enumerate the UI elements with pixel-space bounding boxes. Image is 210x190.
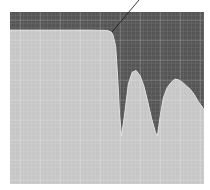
spectrum-figure (0, 0, 210, 190)
spectrum-plot (0, 0, 210, 190)
